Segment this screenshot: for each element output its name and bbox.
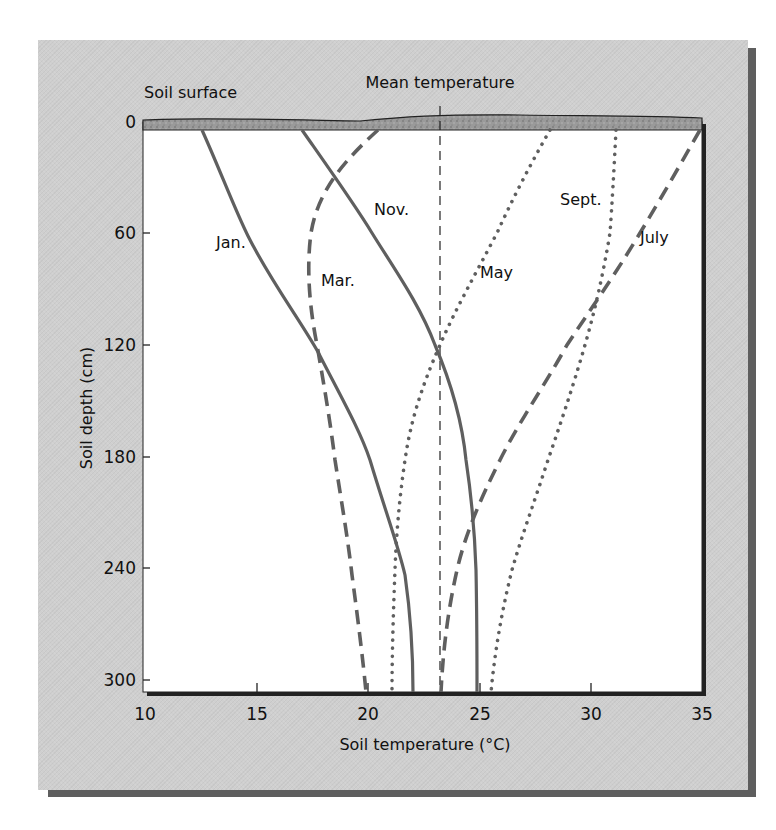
- x-axis-title: Soil temperature (°C): [339, 735, 510, 754]
- x-tick-25: 25: [469, 704, 491, 724]
- plot-area: [143, 122, 702, 692]
- label-nov: Nov.: [374, 200, 409, 219]
- soil-surface-band: [143, 115, 702, 130]
- y-tick-labels: 0 60 120 180 240 300: [104, 112, 136, 690]
- x-tick-30: 30: [580, 704, 602, 724]
- soil-temperature-chart: 0 60 120 180 240 300 10 15 20 25 30 35 S…: [0, 0, 776, 830]
- y-tick-180: 180: [104, 447, 136, 467]
- label-july: July: [639, 228, 669, 247]
- mean-temperature-label: Mean temperature: [365, 73, 514, 92]
- label-jan: Jan.: [215, 233, 246, 252]
- x-tick-10: 10: [134, 704, 156, 724]
- x-tick-labels: 10 15 20 25 30 35: [134, 704, 713, 724]
- y-tick-300: 300: [104, 670, 136, 690]
- label-mar: Mar.: [321, 271, 355, 290]
- x-tick-15: 15: [246, 704, 268, 724]
- label-sept: Sept.: [560, 190, 602, 209]
- y-tick-0: 0: [125, 112, 136, 132]
- y-axis-title: Soil depth (cm): [77, 347, 96, 469]
- y-tick-60: 60: [114, 223, 136, 243]
- y-tick-120: 120: [104, 335, 136, 355]
- x-tick-20: 20: [357, 704, 379, 724]
- x-tick-35: 35: [691, 704, 713, 724]
- soil-surface-label: Soil surface: [144, 83, 237, 102]
- label-may: May: [480, 263, 513, 282]
- y-tick-240: 240: [104, 558, 136, 578]
